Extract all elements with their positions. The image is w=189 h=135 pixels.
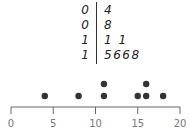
x-axis-tick-label: 5	[50, 118, 56, 129]
stem-leaf-row: 1 1 1	[0, 33, 189, 48]
data-dot	[143, 81, 149, 87]
stem: 1	[80, 33, 90, 48]
stem-leaf-row: 0 8	[0, 18, 189, 33]
leaves: 5668	[104, 48, 141, 63]
data-dot	[75, 93, 81, 99]
x-axis-tick-label: 20	[174, 118, 187, 129]
leaves: 1 1	[104, 33, 128, 48]
stem-leaf-row: 0 4	[0, 3, 189, 18]
dot-plot: 05101520	[0, 66, 189, 135]
stem-leaf-row: 1 5668	[0, 48, 189, 63]
leaves: 8	[104, 18, 113, 33]
dot-plot-svg: 05101520	[0, 66, 189, 135]
x-axis-tick-label: 10	[89, 118, 102, 129]
stem: 0	[80, 3, 90, 18]
x-axis-tick-label: 0	[8, 118, 14, 129]
data-dot	[42, 93, 48, 99]
data-dot	[101, 93, 107, 99]
stem: 0	[80, 18, 90, 33]
stem-and-leaf-plot: 0 4 0 8 1 1 1 1 5668	[0, 0, 189, 66]
data-dot	[101, 81, 107, 87]
data-dot	[135, 93, 141, 99]
data-dot	[160, 93, 166, 99]
leaves: 4	[104, 3, 113, 18]
data-dot	[143, 93, 149, 99]
stem: 1	[80, 48, 90, 63]
x-axis-tick-label: 15	[131, 118, 144, 129]
